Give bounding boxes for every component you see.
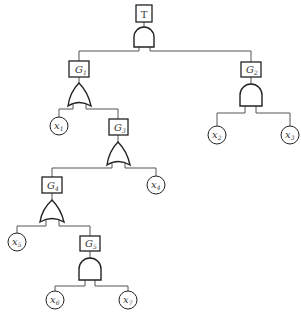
and-gate-icon (240, 84, 262, 106)
basic-event-x3: x3 (281, 126, 299, 144)
gate-g3: G3 (107, 119, 130, 165)
gate-g1: G1 (68, 61, 91, 106)
basic-event-x2: x2 (208, 126, 226, 144)
basic-event-x6: x6 (46, 291, 64, 309)
and-gate-icon (134, 27, 154, 47)
gate-g4: G4 (40, 177, 64, 222)
gate-g5: G5 (79, 236, 101, 280)
or-gate-icon (40, 200, 64, 222)
basic-event-x1: x1 (50, 117, 68, 135)
or-gate-icon (68, 83, 91, 106)
top-event-label: T (141, 9, 148, 20)
fault-tree-diagram: T G1 G2 G3 G4 G5 x1 x2 x3 (0, 0, 301, 318)
basic-event-x4: x4 (147, 176, 165, 194)
basic-event-x7: x7 (119, 291, 137, 309)
or-gate-icon (107, 142, 130, 165)
basic-event-x5: x5 (8, 233, 26, 251)
and-gate-icon (79, 258, 101, 280)
gate-g2: G2 (240, 62, 262, 106)
